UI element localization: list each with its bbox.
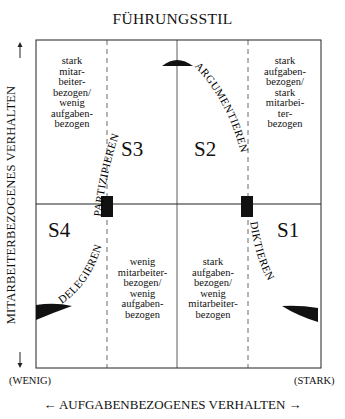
y-axis-label: MITARBEITERBEZOGENES VERHALTEN (4, 86, 19, 325)
curve-peak-marker (162, 60, 193, 66)
curve-label-s4: DELEGIEREN (56, 242, 104, 305)
x-axis-high-label: (STARK) (294, 375, 335, 386)
arrow-right-icon: → (289, 397, 302, 412)
curve-tail-right (282, 306, 318, 322)
curve-marker-right (241, 196, 253, 217)
style-label-s4: S4 (48, 218, 70, 243)
cell-text-top-left: stark mitar- beiter- bezogen/ wenig aufg… (38, 56, 106, 130)
style-label-s1: S1 (277, 218, 299, 243)
style-label-s2: S2 (194, 137, 216, 162)
style-label-s3: S3 (121, 137, 143, 162)
cell-text-bottom-mid-left: wenig mitarbeiter- bezogen/ wenig aufgab… (108, 257, 177, 320)
arrow-up-icon (18, 42, 23, 47)
arrow-left-icon: ← (43, 397, 56, 412)
x-axis-label: ← AUFGABENBEZOGENES VERHALTEN → (0, 397, 345, 413)
x-axis-low-label: (WENIG) (9, 375, 51, 386)
arrow-down-icon (18, 363, 23, 368)
curve-label-s1: DIKTIEREN (248, 221, 277, 283)
cell-text-bottom-mid-right: stark aufgaben- bezogen/ wenig mitarbeit… (178, 257, 248, 320)
curve-tail-left (36, 304, 72, 320)
cell-text-top-right: stark aufgaben- bezogen/ stark mitarbei-… (250, 56, 320, 130)
